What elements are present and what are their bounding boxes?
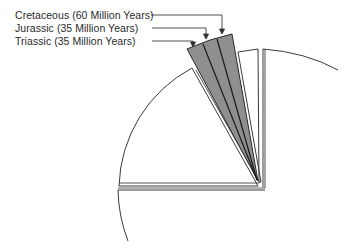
cretaceous-label: Cretaceous (60 Million Years) bbox=[15, 9, 154, 21]
bottom-wedge bbox=[118, 190, 265, 241]
right-wedge bbox=[263, 49, 338, 187]
jurassic-leader bbox=[152, 28, 209, 39]
jurassic-label: Jurassic (35 Million Years) bbox=[15, 22, 138, 34]
cretaceous-leader bbox=[151, 15, 225, 34]
diagram-canvas: Cretaceous (60 Million Years) Jurassic (… bbox=[0, 0, 349, 251]
triassic-label: Triassic (35 Million Years) bbox=[15, 35, 136, 47]
triassic-leader bbox=[152, 41, 196, 47]
